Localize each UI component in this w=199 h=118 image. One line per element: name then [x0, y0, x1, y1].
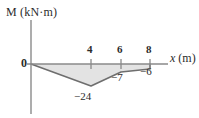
- x-axis-label: x (m): [170, 52, 196, 64]
- x-tick-label-4: 4: [87, 44, 93, 55]
- value-label-minus-7: −7: [111, 72, 123, 83]
- x-tick-label-8: 8: [146, 44, 152, 55]
- y-axis-label: M (kN·m): [6, 6, 57, 18]
- origin-label: 0: [21, 57, 27, 69]
- x-axis-unit: (m): [178, 51, 195, 65]
- x-tick-label-6: 6: [117, 44, 123, 55]
- bending-moment-diagram-figure: M (kN·m) x (m) 0 4 6 8 −24 −7 −6: [0, 0, 199, 118]
- value-label-minus-6: −6: [140, 66, 152, 77]
- x-axis-symbol: x: [170, 51, 175, 65]
- value-label-minus-24: −24: [74, 91, 91, 102]
